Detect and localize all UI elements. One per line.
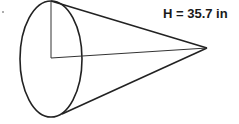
height-label: H = 35.7 in	[163, 6, 228, 21]
stray-dot	[2, 11, 4, 13]
height-line	[51, 48, 207, 58]
cone-lower-slant	[62, 48, 207, 114]
cone-diagram: H = 35.7 in	[0, 0, 239, 124]
